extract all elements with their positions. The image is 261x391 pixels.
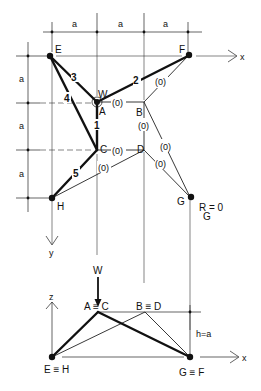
node-label-H: H — [57, 201, 64, 212]
zero-label-BG: (0) — [160, 142, 171, 152]
x-axis-label-elevation: x — [242, 353, 247, 363]
load-label-elevation: W — [93, 265, 103, 276]
node-G — [188, 194, 194, 200]
node-EH — [49, 354, 55, 360]
node-GF — [187, 354, 193, 360]
member-label-2: 2 — [133, 75, 139, 86]
node-label-C: C — [100, 144, 107, 155]
node-label-E: E — [55, 44, 62, 55]
z-axis-arrow: z — [46, 292, 58, 355]
dim-label-left-3: a — [19, 169, 24, 179]
node-F — [186, 52, 192, 58]
zero-label-AB: (0) — [112, 98, 123, 108]
x-axis-label-plan: x — [240, 52, 245, 62]
node-label-B: B — [136, 107, 143, 118]
zero-label-BD: (0) — [138, 121, 149, 131]
reaction-subscript: G — [203, 211, 211, 222]
member-label-1: 1 — [94, 120, 100, 131]
y-axis-label-plan: y — [49, 248, 54, 258]
dim-label-left-2: a — [19, 121, 24, 131]
node-label-G: G — [177, 196, 185, 207]
dim-label-left-1: a — [19, 74, 24, 84]
dim-label-top-1: a — [72, 19, 77, 29]
node-label-EH: E ≡ H — [44, 364, 69, 375]
member-label-3: 3 — [71, 72, 77, 83]
zero-label-DG: (0) — [155, 159, 166, 169]
elevation-members — [52, 312, 190, 357]
reaction-note: R = 0 G — [199, 202, 224, 222]
load-label-plan: W — [98, 89, 108, 100]
node-E — [47, 53, 53, 59]
z-axis-label: z — [49, 292, 54, 302]
node-H — [49, 195, 55, 201]
node-label-A: A — [99, 106, 106, 117]
zero-label-BF: (0) — [155, 77, 166, 87]
node-label-BD: B ≡ D — [136, 301, 161, 312]
node-label-AC: A ≡ C — [84, 301, 109, 312]
left-dimension-line: a a a — [16, 42, 50, 212]
member-label-4: 4 — [64, 93, 70, 104]
space-truss-diagram: a a a a a a x — [0, 0, 261, 391]
node-label-D: D — [137, 144, 144, 155]
dim-label-top-3: a — [163, 19, 168, 29]
member-2 — [97, 56, 188, 102]
node-label-F: F — [179, 44, 185, 55]
zero-label-CD: (0) — [112, 146, 123, 156]
member-label-5: 5 — [73, 168, 79, 179]
dim-label-top-2: a — [118, 19, 123, 29]
node-label-GF: G ≡ F — [179, 367, 204, 378]
height-label: h=a — [196, 329, 211, 339]
zero-label-DH: (0) — [98, 163, 109, 173]
